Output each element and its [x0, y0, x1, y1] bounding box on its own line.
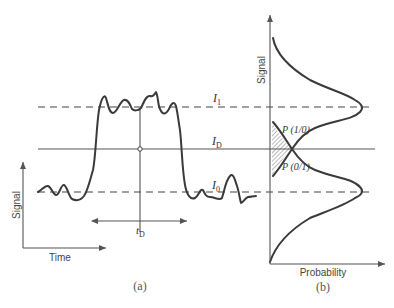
- panel-a-y-axis-label: Signal: [11, 191, 22, 219]
- threshold-level-label: ID: [211, 134, 222, 150]
- panel-b-y-axis-label: Signal: [256, 56, 267, 84]
- decision-point-marker: [138, 147, 142, 151]
- lower-level-label: I0: [211, 178, 220, 194]
- panel-a-x-axis-label: Time: [49, 252, 71, 263]
- p01-label: P (0/1): [281, 161, 311, 173]
- upper-level-label: I1: [212, 91, 221, 107]
- eye-decision-diagram: Signal Time I1 ID I0 tD (a) Signal Proba…: [0, 0, 394, 308]
- panel-a: Signal Time I1 ID I0 tD (a): [11, 91, 375, 293]
- panel-b: Signal Probability P (1/0) P (0/1) (b): [256, 15, 385, 294]
- panel-a-caption: (a): [133, 279, 146, 293]
- panel-b-x-axis-label: Probability: [300, 267, 347, 278]
- p10-label: P (1/0): [281, 124, 311, 136]
- signal-waveform: [38, 92, 256, 203]
- panel-b-caption: (b): [316, 280, 330, 294]
